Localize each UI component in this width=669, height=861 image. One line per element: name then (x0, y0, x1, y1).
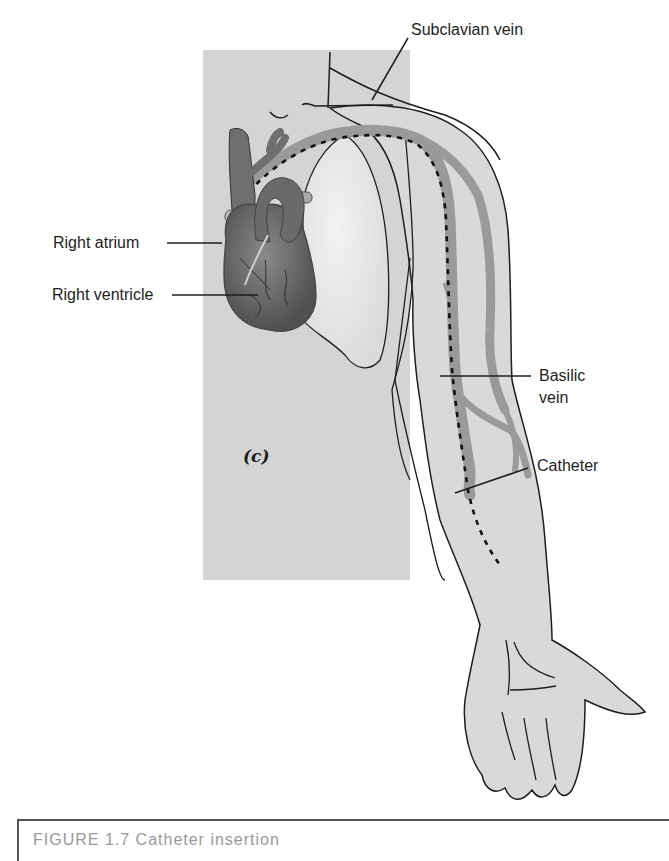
basilic-vein-label-line2: vein (539, 388, 568, 407)
panel-label: (c) (243, 446, 269, 466)
basilic-vein-label-line1: Basilic (539, 366, 585, 385)
right-ventricle-label: Right ventricle (52, 285, 153, 304)
right-atrium-label: Right atrium (53, 233, 139, 252)
caption-text: FIGURE 1.7 Catheter insertion (33, 831, 280, 849)
catheter-label: Catheter (537, 456, 598, 475)
subclavian-vein-label: Subclavian vein (411, 20, 523, 39)
caption-box: FIGURE 1.7 Catheter insertion (17, 819, 669, 861)
